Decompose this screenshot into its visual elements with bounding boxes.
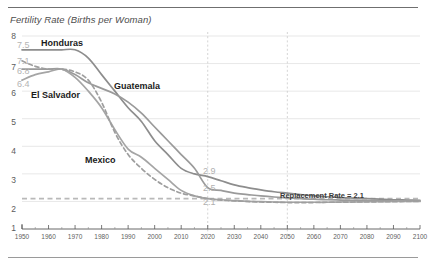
y-axis-label-1: 1 xyxy=(2,223,16,233)
series-line-honduras xyxy=(22,49,420,200)
y-axis-label-8: 8 xyxy=(2,31,16,41)
series-line-el-salvador xyxy=(22,69,420,202)
x-axis-label-2080: 2080 xyxy=(353,233,381,240)
x-axis-label-1960: 1960 xyxy=(35,233,63,240)
start-value-guatemala: 6.8 xyxy=(17,66,30,76)
x-axis-label-2020: 2020 xyxy=(194,233,222,240)
x-axis-label-2100: 2100 xyxy=(406,233,432,240)
replacement-rate-label: Replacement Rate = 2.1 xyxy=(280,191,364,200)
value-2020-honduras: 2.9 xyxy=(203,166,216,176)
start-value-mexico: 7.1 xyxy=(17,56,30,66)
y-axis-label-2: 2 xyxy=(2,204,16,214)
x-axis-label-2010: 2010 xyxy=(167,233,195,240)
y-axis-label-6: 6 xyxy=(2,88,16,98)
x-axis-label-2040: 2040 xyxy=(247,233,275,240)
series-label-mexico: Mexico xyxy=(85,155,116,165)
x-axis-label-2000: 2000 xyxy=(141,233,169,240)
y-axis-label-4: 4 xyxy=(2,146,16,156)
x-axis-label-1950: 1950 xyxy=(8,233,36,240)
start-value-honduras: 7.5 xyxy=(17,40,30,50)
value-2020-mexico: 2.1 xyxy=(203,197,216,207)
x-axis-label-2090: 2090 xyxy=(379,233,407,240)
start-value-el-salvador: 6.4 xyxy=(17,79,30,89)
x-axis-label-2060: 2060 xyxy=(300,233,328,240)
value-2020-guatemala: 2.5 xyxy=(203,183,216,193)
series-label-honduras: Honduras xyxy=(41,38,83,48)
series-label-el-salvador: El Salvador xyxy=(31,90,80,100)
y-axis-label-5: 5 xyxy=(2,117,16,127)
x-axis-label-2030: 2030 xyxy=(220,233,248,240)
y-axis-label-3: 3 xyxy=(2,175,16,185)
x-axis-label-1980: 1980 xyxy=(88,233,116,240)
x-axis-label-2050: 2050 xyxy=(273,233,301,240)
x-axis-label-1970: 1970 xyxy=(61,233,89,240)
x-axis-label-2070: 2070 xyxy=(326,233,354,240)
y-axis-label-7: 7 xyxy=(2,62,16,72)
series-label-guatemala: Guatemala xyxy=(114,81,160,91)
x-axis-label-1990: 1990 xyxy=(114,233,142,240)
